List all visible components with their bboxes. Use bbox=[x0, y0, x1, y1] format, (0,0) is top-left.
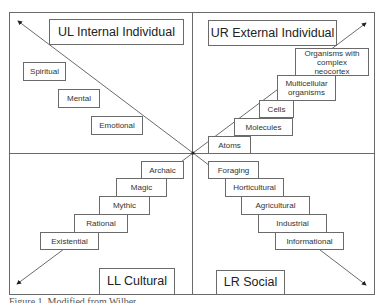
ur-level-multicellular: Multicellular organisms bbox=[277, 75, 336, 101]
ll-level-existential: Existential bbox=[40, 232, 99, 250]
ul-level-emotional: Emotional bbox=[91, 116, 143, 135]
ll-level-rational: Rational bbox=[74, 214, 128, 233]
ul-title: UL Internal Individual bbox=[49, 19, 184, 45]
figure-caption: Figure 1. Modified from Wilber bbox=[9, 296, 136, 303]
lr-level-industrial: Industrial bbox=[258, 214, 327, 233]
ur-level-cells: Cells bbox=[259, 100, 294, 118]
lr-level-informational: Informational bbox=[275, 232, 344, 250]
ur-level-organisms: Organisms with complex neocortex bbox=[295, 48, 369, 76]
ul-level-mental: Mental bbox=[58, 89, 100, 108]
ur-level-molecules: Molecules bbox=[234, 118, 293, 136]
ll-level-archaic: Archaic bbox=[141, 161, 184, 179]
lr-level-foraging: Foraging bbox=[208, 161, 259, 179]
lr-level-agricultural: Agricultural bbox=[241, 196, 310, 215]
ur-title: UR External Individual bbox=[208, 20, 337, 46]
lr-level-horticultural: Horticultural bbox=[225, 178, 284, 197]
ll-level-mythic: Mythic bbox=[99, 196, 150, 215]
ur-level-atoms: Atoms bbox=[208, 136, 251, 154]
center-point-icon bbox=[191, 151, 194, 154]
ll-level-magic: Magic bbox=[116, 178, 167, 197]
lr-title: LR Social bbox=[216, 270, 285, 295]
ul-level-spiritual: Spiritual bbox=[23, 62, 66, 81]
ll-title: LL Cultural bbox=[99, 268, 175, 295]
